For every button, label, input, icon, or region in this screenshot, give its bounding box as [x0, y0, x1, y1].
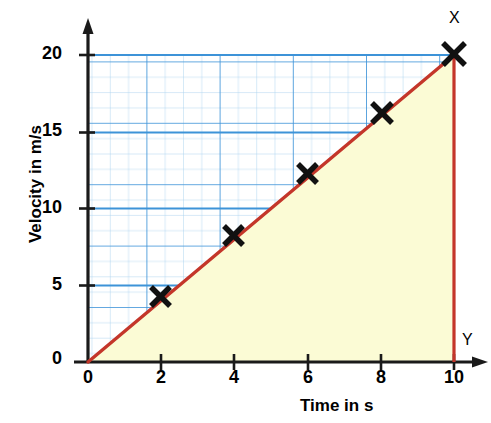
x-tick-label-2: 2 [141, 367, 181, 388]
x-tick-label-6: 6 [288, 367, 328, 388]
velocity-time-chart: 20 15 10 5 0 0 2 4 6 8 10 X Y Velocity i… [0, 0, 491, 423]
y-tick-label-5: 5 [22, 274, 62, 295]
annotation-point-x: X [449, 9, 460, 27]
x-axis-title: Time in s [300, 396, 373, 416]
y-tick-label-0: 0 [22, 348, 62, 369]
y-tick-label-20: 20 [22, 43, 62, 64]
y-axis-title: Velocity in m/s [26, 94, 46, 274]
x-tick-label-4: 4 [214, 367, 254, 388]
annotation-point-y: Y [462, 331, 473, 349]
chart-canvas [0, 0, 491, 423]
x-tick-label-10: 10 [434, 367, 474, 388]
x-tick-label-0: 0 [68, 367, 108, 388]
x-tick-label-8: 8 [361, 367, 401, 388]
